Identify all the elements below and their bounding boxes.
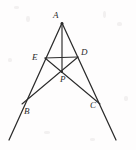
vertex-label-A: A [53, 11, 59, 20]
geometry-svg [0, 0, 136, 150]
segment-D-B [22, 57, 78, 104]
vertex-dot-A [61, 22, 64, 25]
vertex-label-P: P [60, 75, 66, 84]
vertex-dot-P [61, 71, 63, 73]
vertex-label-B: B [24, 107, 30, 116]
vertex-label-D: D [81, 48, 88, 57]
segment-E-D [45, 57, 78, 58]
ray-A-through-B [9, 23, 62, 140]
geometry-figure: A E D P B C [0, 0, 136, 150]
vertex-label-E: E [32, 53, 38, 62]
ray-A-through-C [62, 23, 116, 140]
segment-E-C [45, 58, 100, 104]
vertex-label-C: C [90, 101, 96, 110]
